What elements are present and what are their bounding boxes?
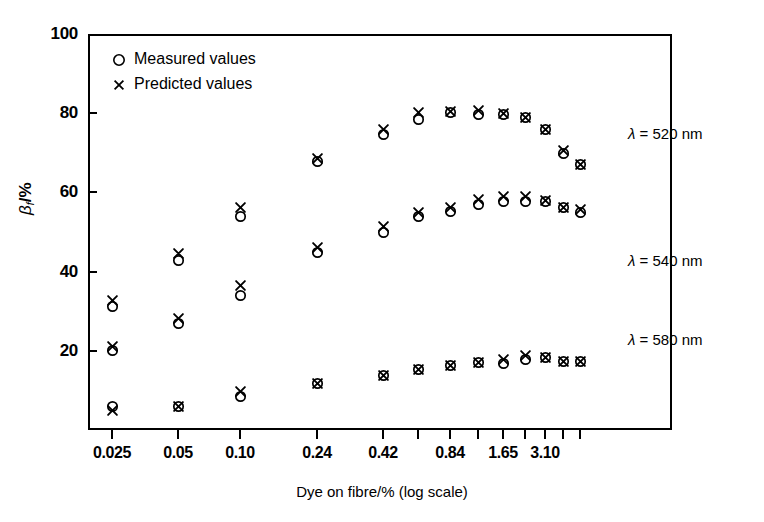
data-point-predicted (234, 279, 247, 292)
circle-marker-icon (108, 51, 134, 67)
y-tick-label: 80 (26, 103, 78, 123)
data-point-predicted (106, 294, 119, 307)
data-point-predicted (412, 363, 425, 376)
y-tick-label: 60 (26, 182, 78, 202)
x-tick-mark (562, 430, 564, 439)
data-point-predicted (557, 144, 570, 157)
y-tick-label: 100 (26, 24, 78, 44)
data-point-predicted (412, 106, 425, 119)
data-point-predicted (172, 247, 185, 260)
x-tick-mark (544, 430, 546, 439)
cross-marker-icon (108, 76, 134, 92)
data-point-predicted (497, 353, 510, 366)
data-point-predicted (377, 369, 390, 382)
x-tick-mark (524, 430, 526, 439)
legend-item-measured: Measured values (108, 48, 256, 70)
x-tick-label: 0.42 (368, 444, 398, 462)
data-point-predicted (172, 312, 185, 325)
x-tick-label: 0.10 (225, 444, 255, 462)
y-tick-label: 20 (26, 341, 78, 361)
y-tick-mark (88, 271, 97, 273)
y-tick-mark (88, 191, 97, 193)
data-point-predicted (472, 104, 485, 117)
data-point-predicted (574, 355, 587, 368)
legend-item-predicted: Predicted values (108, 73, 256, 95)
data-point-predicted (311, 241, 324, 254)
y-tick-mark (88, 112, 97, 114)
data-point-predicted (106, 340, 119, 353)
x-tick-mark (449, 430, 451, 439)
x-tick-mark (111, 430, 113, 439)
series-annotation: λ = 540 nm (628, 252, 703, 269)
legend: Measured values Predicted values (108, 48, 256, 98)
y-axis-subscript: f (24, 202, 36, 205)
data-point-predicted (472, 193, 485, 206)
x-tick-label: 3.10 (530, 444, 560, 462)
data-point-predicted (539, 123, 552, 136)
data-point-predicted (519, 190, 532, 203)
data-point-predicted (444, 201, 457, 214)
data-point-predicted (106, 404, 119, 417)
data-point-predicted (412, 206, 425, 219)
data-point-predicted (539, 194, 552, 207)
x-tick-mark (177, 430, 179, 439)
data-point-predicted (172, 400, 185, 413)
x-tick-mark (477, 430, 479, 439)
data-point-predicted (497, 107, 510, 120)
data-point-predicted (497, 190, 510, 203)
data-point-predicted (377, 123, 390, 136)
data-point-predicted (519, 349, 532, 362)
y-tick-label: 40 (26, 262, 78, 282)
data-point-predicted (519, 111, 532, 124)
x-tick-label: 0.84 (435, 444, 465, 462)
data-point-predicted (234, 385, 247, 398)
data-point-predicted (557, 201, 570, 214)
x-tick-label: 1.65 (488, 444, 518, 462)
chart-figure: βf/% Dye on fibre/% (log scale) Measured… (0, 0, 764, 522)
x-tick-mark (316, 430, 318, 439)
data-point-predicted (444, 105, 457, 118)
data-point-predicted (472, 356, 485, 369)
data-point-predicted (444, 359, 457, 372)
x-tick-label: 0.24 (302, 444, 332, 462)
data-point-predicted (539, 351, 552, 364)
x-tick-label: 0.025 (93, 444, 131, 462)
x-tick-mark (239, 430, 241, 439)
data-point-predicted (377, 220, 390, 233)
legend-label-measured: Measured values (134, 50, 256, 68)
data-point-predicted (234, 201, 247, 214)
series-annotation: λ = 580 nm (628, 331, 703, 348)
legend-label-predicted: Predicted values (134, 75, 252, 93)
x-tick-mark (579, 430, 581, 439)
data-point-predicted (311, 152, 324, 165)
y-axis-symbol: β (16, 205, 35, 215)
x-tick-mark (502, 430, 504, 439)
x-axis-title: Dye on fibre/% (log scale) (0, 483, 764, 500)
x-tick-mark (417, 430, 419, 439)
data-point-predicted (557, 355, 570, 368)
x-tick-label: 0.05 (163, 444, 193, 462)
x-tick-mark (382, 430, 384, 439)
data-point-predicted (311, 377, 324, 390)
y-tick-mark (88, 350, 97, 352)
data-point-predicted (574, 158, 587, 171)
series-annotation: λ = 520 nm (628, 125, 703, 142)
data-point-predicted (574, 203, 587, 216)
